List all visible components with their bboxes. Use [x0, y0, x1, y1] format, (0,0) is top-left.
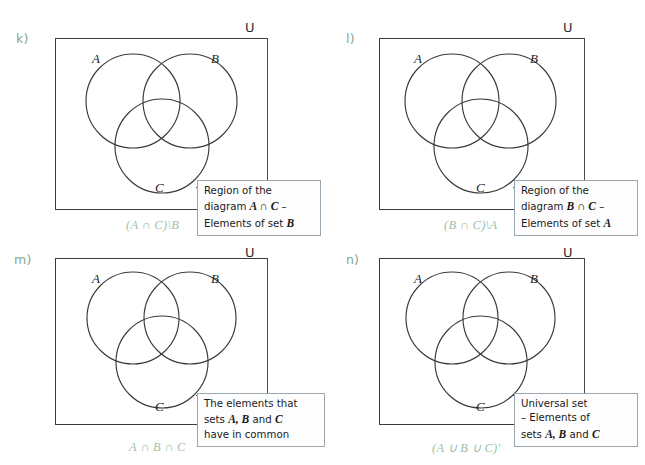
formula-l: (B ∩ C)\A [444, 218, 497, 233]
circle-a-l [405, 54, 499, 148]
item-letter-l: l) [346, 31, 355, 46]
callout-l-line-3: Elements of set A [521, 215, 631, 231]
callout-n: Universal set – Elements of sets A, B an… [514, 393, 638, 447]
callout-l: Region of the diagram B ∩ C – Elements o… [514, 180, 638, 236]
universe-symbol-k: U [245, 21, 255, 34]
set-label-a-n: A [414, 271, 422, 287]
item-letter-n: n) [346, 252, 359, 267]
circle-a-m [87, 272, 179, 364]
set-label-a-m: A [92, 271, 100, 287]
callout-k-line-2: diagram A ∩ C – [204, 198, 314, 214]
set-label-a-k: A [92, 51, 100, 67]
set-label-b-k: B [211, 51, 219, 67]
callout-k: Region of the diagram A ∩ C – Elements o… [197, 180, 321, 236]
callout-n-line-1: Universal set [521, 397, 631, 411]
leader-line-vertical-l [584, 39, 585, 188]
callout-k-line-3: Elements of set B [204, 215, 314, 231]
callout-l-line-2: diagram B ∩ C – [521, 198, 631, 214]
venn-diagram-worksheet: k) U A B C (A ∩ C)\B Region of the diagr… [0, 0, 645, 465]
callout-k-line-1: Region of the [204, 184, 314, 198]
set-label-c-m: C [155, 399, 164, 415]
circle-c-k [115, 99, 209, 193]
set-label-a-l: A [414, 51, 422, 67]
set-label-c-k: C [155, 180, 164, 196]
set-label-c-n: C [476, 399, 485, 415]
callout-m-line-3: have in common [204, 428, 318, 442]
callout-m: The elements that sets A, B and C have i… [197, 393, 325, 447]
callout-n-line-3: sets A, B and C [521, 426, 631, 442]
circle-b-n [463, 272, 555, 364]
formula-k: (A ∩ C)\B [126, 218, 179, 233]
formula-n: (A ∪ B ∪ C)' [432, 440, 500, 456]
callout-m-line-1: The elements that [204, 397, 318, 411]
circle-b-l [462, 54, 556, 148]
circle-a-k [86, 54, 180, 148]
callout-m-line-2: sets A, B and C [204, 411, 318, 427]
formula-m: A ∩ B ∩ C [129, 440, 186, 455]
circle-b-k [143, 54, 237, 148]
universe-symbol-l: U [563, 21, 573, 34]
item-letter-m: m) [14, 252, 31, 267]
callout-l-line-1: Region of the [521, 184, 631, 198]
set-label-c-l: C [476, 180, 485, 196]
set-label-b-n: B [530, 271, 538, 287]
item-letter-k: k) [16, 31, 29, 46]
circle-c-m [116, 316, 208, 408]
set-label-b-m: B [211, 271, 219, 287]
circle-c-l [434, 99, 528, 193]
callout-n-line-2: – Elements of [521, 411, 631, 425]
leader-line-vertical-k [267, 39, 268, 188]
set-label-b-l: B [530, 51, 538, 67]
leader-line-vertical-m [267, 259, 268, 396]
leader-line-vertical-n [584, 259, 585, 396]
circle-b-m [144, 272, 236, 364]
